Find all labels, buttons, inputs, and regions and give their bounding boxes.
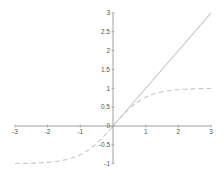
y-tick-label: 2.5 — [101, 28, 110, 35]
x-tick-label: 2 — [177, 128, 181, 135]
x-tick-label: 1 — [144, 128, 148, 135]
x-tick-label: -2 — [45, 128, 51, 135]
y-tick-label: 1.5 — [101, 66, 110, 73]
x-tick-label: 3 — [209, 128, 213, 135]
y-tick-label: 3 — [106, 9, 110, 16]
y-tick-label: -0.5 — [99, 141, 111, 148]
identity-line — [113, 13, 211, 126]
y-tick-label: 0.5 — [101, 103, 110, 110]
y-tick-label: 2 — [106, 47, 110, 54]
y-tick-label: 0 — [106, 122, 110, 129]
chart: -3-2-1123-1-0.500.511.522.53 — [0, 0, 224, 178]
x-tick-label: -1 — [77, 128, 83, 135]
y-tick-label: 1 — [106, 85, 110, 92]
x-tick-label: -3 — [12, 128, 18, 135]
y-tick-label: -1 — [104, 160, 110, 167]
